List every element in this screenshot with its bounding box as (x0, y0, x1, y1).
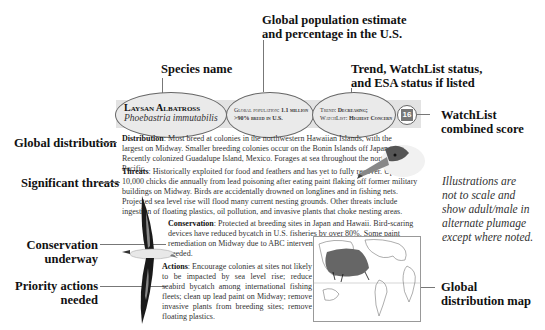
leader-line-threats (100, 182, 120, 183)
callout-priority-line2: needed (10, 293, 98, 307)
note-line1: Illustrations are (442, 174, 533, 188)
callout-significant-threats: Significant threats (21, 176, 119, 190)
population-value: 1.1 million (281, 107, 308, 113)
watchlist-score-value: 16 (401, 109, 413, 121)
albatross-head-illustration (355, 143, 427, 183)
callout-global-population-line1: Global population estimate (262, 13, 406, 27)
callout-trend-line1: Trend, WatchList status, (351, 62, 482, 76)
trend-line: Trend: Decreasing; (320, 106, 394, 114)
leader-line-score (416, 114, 430, 115)
callout-distribution-map: Global distribution map (441, 280, 531, 308)
population-line: Global population: 1.1 million (234, 106, 312, 114)
leader-line-distribution (97, 142, 117, 143)
us-breeding-percent: >90% breed in U.S. (234, 114, 312, 122)
albatross-flying-illustration (118, 192, 178, 328)
callout-priority-actions: Priority actions needed (10, 279, 98, 307)
callout-conservation-line1: Conservation (20, 238, 98, 252)
actions-paragraph: Actions: Encourage colonies at sites not… (162, 262, 312, 322)
note-line3: show adult/male in (442, 202, 533, 216)
callout-score-line1: WatchList (441, 108, 524, 122)
callout-conservation-line2: underway (20, 252, 98, 266)
note-line2: not to scale and (442, 188, 533, 202)
callout-watchlist-score: WatchList combined score (441, 108, 524, 136)
scientific-name: Phoebastria immutabilis (124, 113, 224, 124)
watchlist-score-badge: 16 (397, 105, 417, 125)
callout-map-line1: Global (441, 280, 531, 294)
watchlist-label: WatchList: (320, 115, 347, 121)
global-distribution-map (313, 236, 421, 322)
note-line4: alternate plumage (442, 216, 533, 230)
common-name: Laysan Albatross (124, 102, 224, 113)
trend-value: Decreasing; (338, 107, 368, 113)
trend-label: Trend: (320, 107, 336, 113)
callout-global-population-line2: and percentage in the U.S. (262, 27, 406, 41)
callout-trend-line2: and ESA status if listed (351, 76, 482, 90)
leader-line-species (162, 78, 163, 93)
watchlist-value: Highest Concern (349, 115, 392, 121)
callout-conservation: Conservation underway (20, 238, 98, 266)
population-label: Global population: (234, 107, 280, 113)
illustrations-note: Illustrations are not to scale and show … (442, 174, 533, 244)
note-line5: except where noted. (442, 230, 533, 244)
threats-label: Threats (122, 167, 149, 176)
callout-map-line2: distribution map (441, 294, 531, 308)
leader-line-population (263, 40, 264, 92)
distribution-label: Distribution (122, 134, 164, 143)
callout-global-distribution: Global distribution (14, 136, 116, 150)
leader-line-map (421, 287, 435, 288)
trend-block: Trend: Decreasing; WatchList: Highest Co… (320, 106, 394, 122)
callout-trend-status: Trend, WatchList status, and ESA status … (351, 62, 482, 90)
watchlist-line: WatchList: Highest Concern (320, 114, 394, 122)
callout-species-name: Species name (161, 62, 232, 76)
species-name-block: Laysan Albatross Phoebastria immutabilis (124, 102, 224, 124)
callout-priority-line1: Priority actions (10, 279, 98, 293)
population-block: Global population: 1.1 million >90% bree… (234, 106, 312, 122)
callout-global-population: Global population estimate and percentag… (262, 13, 406, 41)
callout-score-line2: combined score (441, 122, 524, 136)
